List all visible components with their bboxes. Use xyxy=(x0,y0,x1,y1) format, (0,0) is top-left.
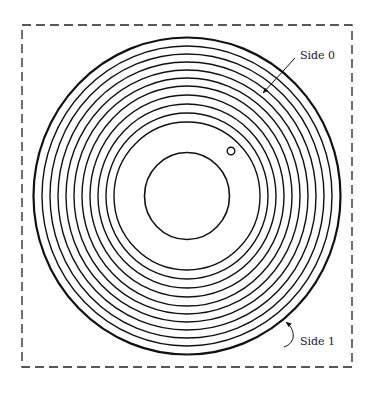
track-ring xyxy=(90,95,284,297)
side-0-arrow xyxy=(263,58,295,93)
spindle-hole xyxy=(145,153,230,240)
track-ring xyxy=(98,104,276,288)
side-0-label: Side 0 xyxy=(300,49,335,62)
disk xyxy=(34,38,341,355)
track-ring xyxy=(106,113,268,279)
side-1-label: Side 1 xyxy=(300,335,335,348)
side-1-curved-arrow xyxy=(284,322,293,347)
track-ring xyxy=(42,46,332,346)
track-ring xyxy=(50,54,324,338)
floppy-disk-diagram: Side 0 Side 1 xyxy=(0,0,377,393)
index-hole xyxy=(227,147,235,155)
tracks-group xyxy=(42,46,332,346)
disk-outer-edge xyxy=(34,38,341,355)
dashed-border xyxy=(22,25,352,367)
track-ring xyxy=(66,70,308,322)
track-ring xyxy=(58,62,316,330)
track-ring xyxy=(114,122,260,270)
